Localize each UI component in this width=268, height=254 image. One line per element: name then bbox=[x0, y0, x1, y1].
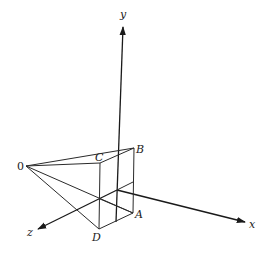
y-axis bbox=[116, 27, 123, 222]
z-axis-label: z bbox=[26, 226, 33, 239]
x-axis-label: x bbox=[249, 218, 256, 231]
edge-B-A bbox=[133, 148, 134, 213]
y-axis-label: y bbox=[119, 8, 127, 21]
edge-origin-B-side bbox=[117, 182, 133, 190]
point-B-label: B bbox=[135, 143, 144, 156]
point-D-label: D bbox=[91, 231, 101, 244]
line-0-D bbox=[26, 166, 99, 229]
edge-C-D bbox=[99, 163, 100, 229]
point-A-label: A bbox=[134, 208, 143, 221]
point-0-label: 0 bbox=[17, 160, 24, 173]
point-C-label: C bbox=[95, 151, 104, 164]
z-axis bbox=[38, 190, 117, 229]
edge-C-B bbox=[100, 148, 134, 163]
perspective-diagram: y x z 0 B C A D bbox=[0, 0, 268, 254]
